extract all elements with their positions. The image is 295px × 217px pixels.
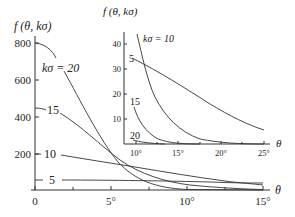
main-y-tick-800: 800 [15, 37, 32, 49]
inset-label-k20: 20 [130, 130, 140, 141]
inset-label-k5: 5 [129, 53, 134, 64]
chart-container: f (θ, kσ) 800 600 400 200 0 5° 10° [0, 0, 295, 217]
inset-x-tick-25: 25° [258, 148, 270, 158]
chart-svg: f (θ, kσ) 800 600 400 200 0 5° 10° [0, 0, 295, 217]
inset-label-k10: kσ = 10 [143, 33, 174, 44]
main-label-k20: kσ = 20 [42, 61, 79, 75]
main-x-tick-10: 10° [179, 195, 194, 207]
main-x-tick-0: 0 [32, 195, 38, 207]
main-y-axis-label: f (θ, kσ) [14, 19, 51, 33]
inset-y-tick-40: 40 [113, 39, 122, 49]
main-x-tick-5: 5° [106, 195, 116, 207]
main-label-k5: 5 [49, 173, 55, 187]
inset-x-tick-10: 10° [130, 148, 142, 158]
main-y-tick-600: 600 [15, 74, 32, 86]
main-x-ticks: 0 5° 10° 15° [32, 186, 270, 207]
inset-x-tick-15: 15° [172, 148, 184, 158]
main-y-tick-200: 200 [15, 148, 32, 160]
main-label-k10: 10 [44, 147, 56, 161]
main-x-tick-15: 15° [255, 195, 270, 207]
inset-y-axis-label: f (θ, kσ) [103, 5, 138, 18]
main-x-axis-label: θ [275, 183, 281, 197]
inset-y-tick-10: 10 [113, 114, 122, 124]
inset-chart: f (θ, kσ) 40 30 20 10 10° 15° 20° 25° [103, 5, 282, 158]
main-label-k15: 15 [47, 103, 59, 117]
inset-label-k15: 15 [130, 96, 140, 107]
inset-x-tick-20: 20° [215, 148, 227, 158]
inset-y-tick-20: 20 [113, 89, 122, 99]
inset-x-axis-label: θ [276, 137, 282, 149]
inset-y-tick-30: 30 [113, 64, 122, 74]
main-y-tick-400: 400 [15, 111, 32, 123]
